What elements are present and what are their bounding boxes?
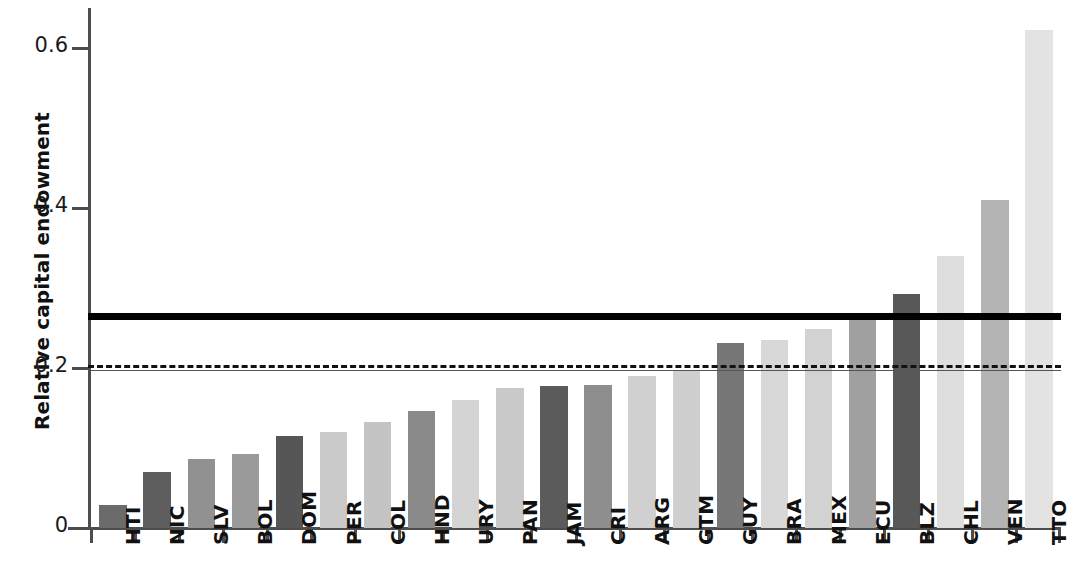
x-label-blz: BLZ <box>915 502 939 545</box>
x-label-gtm: GTM <box>694 494 718 545</box>
x-label-bra: BRA <box>782 498 806 545</box>
y-tick-mark <box>72 47 89 50</box>
x-label-hti: HTI <box>121 506 145 545</box>
y-tick-mark <box>72 527 89 530</box>
x-label-guy: GUY <box>738 497 762 545</box>
x-label-per: PER <box>342 500 366 545</box>
x-label-arg: ARG <box>650 497 674 545</box>
bar-chl <box>937 256 964 528</box>
x-tick-mark <box>90 529 93 543</box>
y-tick-mark <box>72 367 89 370</box>
y-tick-label: 0 <box>6 513 68 537</box>
bar-tto <box>1025 30 1052 528</box>
y-axis-line <box>88 8 91 529</box>
x-label-cri: CRI <box>606 507 630 545</box>
x-label-hnd: HND <box>430 494 454 545</box>
y-tick-label: 0.6 <box>6 33 68 57</box>
x-label-nic: NIC <box>165 505 189 545</box>
x-label-col: COL <box>386 500 410 545</box>
y-tick-mark <box>72 207 89 210</box>
x-label-ven: VEN <box>1003 498 1027 545</box>
x-label-pan: PAN <box>518 499 542 545</box>
x-label-jam: JAM <box>562 501 586 545</box>
y-tick-label: 0.2 <box>6 353 68 377</box>
x-label-chl: CHL <box>959 500 983 545</box>
x-label-bol: BOL <box>253 499 277 545</box>
y-axis-title: Relative capital endowment <box>30 130 54 430</box>
y-tick-label: 0.4 <box>6 193 68 217</box>
bar-blz <box>893 294 920 528</box>
x-label-mex: MEX <box>827 495 851 545</box>
x-label-ury: URY <box>474 499 498 545</box>
x-label-slv: SLV <box>209 504 233 545</box>
thin-solid-reference <box>88 370 1061 371</box>
bar-ven <box>981 200 1008 528</box>
x-label-dom: DOM <box>297 491 321 545</box>
x-label-tto: TTO <box>1047 499 1071 545</box>
bar-ecu <box>849 317 876 528</box>
dashed-reference <box>88 365 1061 368</box>
x-label-ecu: ECU <box>871 500 895 545</box>
thick-solid-reference <box>88 313 1061 320</box>
